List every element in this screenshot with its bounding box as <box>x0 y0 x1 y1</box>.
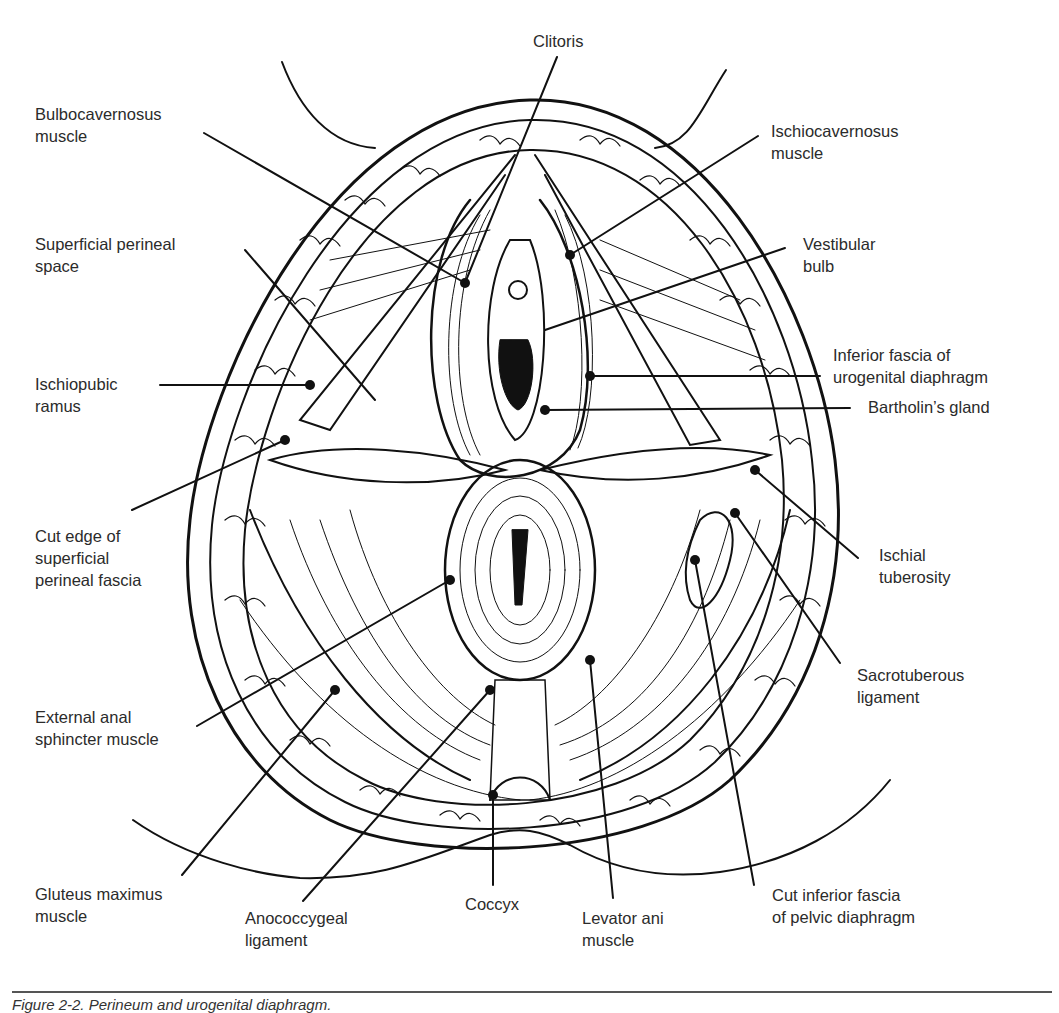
label-ischial-tuberosity: Ischial tuberosity <box>879 544 951 588</box>
urethral-meatus <box>509 281 527 299</box>
leader-lines <box>132 57 858 901</box>
label-clitoris: Clitoris <box>533 30 583 52</box>
label-sacrotuberous-ligament: Sacrotuberous ligament <box>857 664 964 708</box>
figure-caption: Figure 2-2. Perineum and urogenital diap… <box>12 996 331 1013</box>
anus <box>512 530 528 605</box>
levator-ani-right <box>580 510 790 780</box>
label-superficial-perineal-space: Superficial perineal space <box>35 233 175 277</box>
ischiocavernosus-left <box>300 155 515 430</box>
label-cut-edge-superficial-perineal-fascia: Cut edge of superficial perineal fascia <box>35 525 141 591</box>
label-cut-inferior-fascia-pelvic-diaphragm: Cut inferior fascia of pelvic diaphragm <box>772 884 915 928</box>
thigh-contour-right <box>655 70 726 148</box>
muscle-striations <box>310 210 765 455</box>
label-bulbocavernosus-muscle: Bulbocavernosus muscle <box>35 103 162 147</box>
label-external-anal-sphincter-muscle: External anal sphincter muscle <box>35 706 159 750</box>
ischiocavernosus-right <box>535 155 720 445</box>
label-ischiopubic-ramus: Ischiopubic ramus <box>35 373 118 417</box>
label-ischiocavernosus-muscle: Ischiocavernosus muscle <box>771 120 898 164</box>
caption-rule <box>12 991 1052 993</box>
vaginal-opening <box>499 340 533 410</box>
levator-ani-left <box>250 510 470 780</box>
label-bartholins-gland: Bartholin’s gland <box>868 396 990 418</box>
transverse-perineal-right <box>540 448 770 480</box>
outer-ring-outer <box>188 100 839 849</box>
thigh-contour-left <box>282 62 375 148</box>
label-anococcygeal-ligament: Anococcygeal ligament <box>245 907 348 951</box>
label-levator-ani-muscle: Levator ani muscle <box>582 907 664 951</box>
label-coccyx: Coccyx <box>465 893 519 915</box>
label-gluteus-maximus-muscle: Gluteus maximus muscle <box>35 883 162 927</box>
label-inferior-fascia-urogenital-diaphragm: Inferior fascia of urogenital diaphragm <box>833 344 988 388</box>
label-vestibular-bulb: Vestibular bulb <box>803 233 875 277</box>
anococcygeal-body <box>490 680 550 800</box>
